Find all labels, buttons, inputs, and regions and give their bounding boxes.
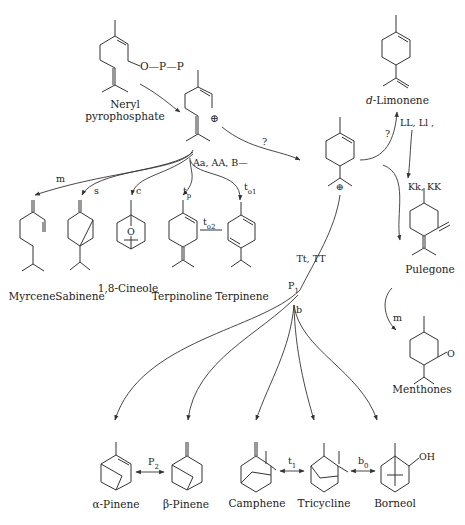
terpinoline-structure [169,200,197,267]
arrow-to-camphene [256,305,294,420]
arrow-to-alpha-pinene [115,290,300,420]
gene-label-t1: t1 [288,455,296,470]
pulegone-label: Pulegone [405,263,454,275]
cineole-structure [117,200,145,249]
borneol-structure [381,443,419,492]
gene-label-to1: to1 [244,181,257,196]
gene-label-p2: P2 [148,456,159,471]
alpha-pinene-structure [101,442,131,490]
sabinene-structure [68,200,93,270]
terpene-pathway-diagram: O—P—P Neryl pyrophosphate ⊕ Aa, AA, B— ?… [0,0,465,525]
menthone-oxygen: O [447,348,455,359]
pulegone-structure [410,188,450,255]
tricycline-structure [311,443,348,492]
neryl-label-2: pyrophosphate [85,110,164,122]
neryl-to-cation-arrow [140,84,180,112]
gene-label-unknown-1: ? [262,136,267,147]
neryl-pyrophosphate-structure [100,20,140,92]
myrcene-label: Myrcene [9,290,56,302]
arrow-to-pulegone [383,165,400,240]
arrow-pulegone-to-menthones [385,288,396,330]
arrow-cation-to-limonene [360,112,397,160]
gene-label-aa-aa-b: Aa, AA, B— [192,157,248,168]
cineole-oxygen: O [127,226,135,237]
borneol-label: Borneol [374,497,416,509]
tricycline-label: Tricycline [298,497,351,509]
gene-label-m: m [56,173,65,184]
borneol-hydroxyl: OH [419,451,435,462]
gene-label-tt: Tt, TT [296,253,326,264]
limonene-structure [382,15,410,88]
gene-label-b: b [296,304,302,315]
gene-label-s: s [94,185,99,196]
menthones-structure [410,316,447,384]
terpinyl-cation-structure [326,117,354,186]
neryl-label-1: Neryl [110,98,140,110]
gene-label-m-2: m [393,312,402,323]
cation-symbol-2: ⊕ [336,181,344,192]
cineole-label: 1,8-Cineole [98,282,159,294]
beta-pinene-label: β-Pinene [163,498,209,510]
gene-label-kk: Kk, KK [408,181,442,192]
myrcene-structure [20,200,45,271]
camphene-label: Camphene [229,497,286,509]
terpinene-structure [228,202,255,267]
gene-label-ll: LL, Ll , [400,117,434,128]
neryl-cation-structure [185,70,212,141]
arrow-limonene-down [408,130,412,178]
arrow-to-borneol [294,305,377,420]
menthones-label: Menthones [392,383,451,395]
pinane-branch-line [300,195,340,290]
beta-pinene-structure [172,442,202,490]
cation-symbol-1: ⊕ [210,112,219,124]
camphene-structure [241,442,276,492]
terpinene-label: Terpinene [215,290,268,302]
limonene-label: d-Limonene [366,94,429,106]
gene-label-b0: b0 [358,455,369,470]
gene-label-c: c [136,185,141,196]
gene-label-to2: to2 [203,216,216,231]
arrow-to-tricycline [294,305,314,420]
gene-label-tp: tp [183,185,192,200]
gene-label-unknown-2: ? [385,128,390,139]
arrow-to-terpinyl-cation [222,127,300,160]
terpinoline-label: Terpinoline [152,290,212,302]
pyrophosphate-group: O—P—P [140,60,184,72]
alpha-pinene-label: α-Pinene [92,498,139,510]
